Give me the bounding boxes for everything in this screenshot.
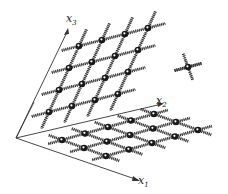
node-highlight (146, 26, 148, 28)
node-highlight (83, 132, 85, 134)
node-highlight (93, 98, 95, 100)
node-highlight (106, 125, 108, 127)
x2-label: x2 (156, 94, 167, 109)
node-highlight (100, 38, 102, 40)
isolated-node (174, 54, 201, 80)
node-highlight (127, 148, 129, 150)
node-highlight (104, 154, 106, 156)
node-highlight (129, 119, 131, 121)
node-highlight (123, 32, 125, 34)
node-highlight (77, 44, 79, 46)
node-highlight (80, 82, 82, 84)
node-highlight (70, 104, 72, 106)
node-highlight (151, 127, 153, 129)
node-highlight (150, 141, 152, 143)
x1-axis (16, 138, 138, 180)
node-highlight (47, 110, 49, 112)
x3-label: x3 (66, 12, 77, 27)
node-highlight (174, 120, 176, 122)
plane-edge (16, 102, 34, 138)
node-highlight (105, 140, 107, 142)
node-highlight (113, 54, 115, 56)
x3-arrowhead (64, 28, 69, 35)
node-highlight (152, 112, 154, 114)
node-highlight (126, 70, 128, 72)
node-highlight (173, 135, 175, 137)
x1-label: x1 (138, 174, 149, 189)
node-highlight (186, 65, 188, 67)
coordinate-axes (16, 28, 164, 181)
node-highlight (136, 48, 138, 50)
node-highlight (82, 146, 84, 148)
node-highlight (57, 88, 59, 90)
lattice-diagram: x3 x2 x1 (0, 0, 228, 194)
node-highlight (116, 92, 118, 94)
base-lattice (48, 109, 212, 161)
node-highlight (196, 128, 198, 130)
node-highlight (90, 60, 92, 62)
node-highlight (67, 66, 69, 68)
node-highlight (128, 133, 130, 135)
node-highlight (103, 76, 105, 78)
node-highlight (60, 138, 62, 140)
